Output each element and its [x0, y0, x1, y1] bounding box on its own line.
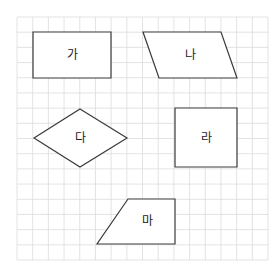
shapes-group: 가나다라마: [33, 32, 237, 244]
shape-trapezoid: 마: [97, 199, 175, 244]
shape-rhombus: 다: [34, 109, 127, 167]
shape-square: 라: [175, 108, 237, 167]
shape-rectangle: 가: [33, 32, 111, 78]
shape-label: 마: [142, 214, 153, 228]
shapes-diagram: 가나다라마: [0, 0, 276, 273]
shape-label: 가: [67, 48, 78, 62]
shape-label: 나: [185, 48, 196, 62]
shape-label: 라: [201, 131, 212, 145]
shape-label: 다: [75, 131, 86, 145]
shape-parallelogram: 나: [143, 32, 237, 78]
trapezoid-outline: [97, 199, 175, 244]
